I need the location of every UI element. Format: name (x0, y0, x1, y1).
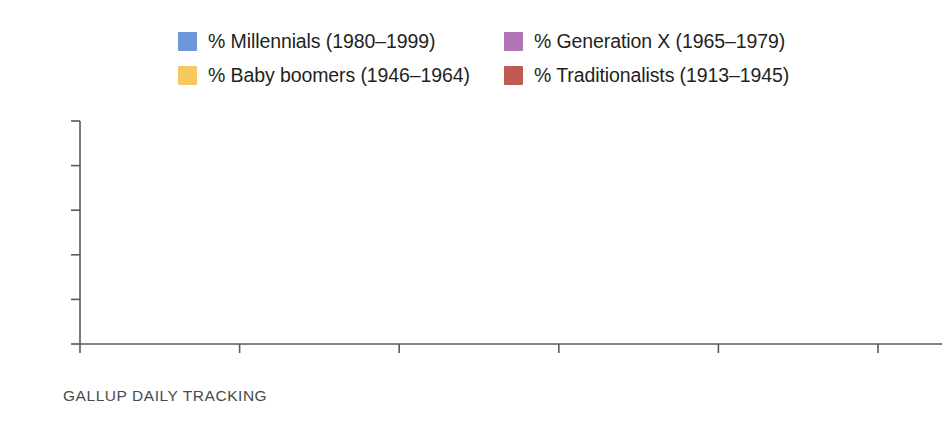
chart-figure: % Millennials (1980–1999) % Generation X… (0, 0, 942, 433)
chart-canvas (0, 0, 942, 433)
plot-area (0, 0, 942, 433)
source-footnote: GALLUP DAILY TRACKING (63, 387, 267, 405)
